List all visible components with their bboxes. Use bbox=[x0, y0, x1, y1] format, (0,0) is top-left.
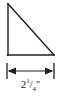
figure-canvas: 21/4" bbox=[0, 0, 61, 96]
base-dimension-label: 21/4" bbox=[0, 78, 61, 91]
dimension-fraction: 1/4 bbox=[26, 78, 36, 90]
dimension-unit-symbol: " bbox=[36, 79, 40, 90]
